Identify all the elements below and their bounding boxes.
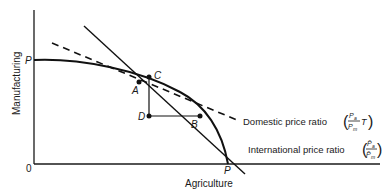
ppf-y-intercept-label: P bbox=[25, 55, 32, 66]
svg-text:m: m bbox=[371, 154, 375, 160]
point-c-label: C bbox=[154, 70, 162, 81]
point-b-label: B bbox=[191, 119, 198, 130]
point-b-marker bbox=[198, 114, 203, 119]
svg-text:a: a bbox=[372, 143, 375, 149]
point-a-label: A bbox=[131, 85, 139, 96]
y-axis-title: Manufacturing bbox=[11, 52, 22, 115]
domestic-price-line bbox=[52, 43, 237, 120]
domestic-price-ratio-label: Domestic price ratio ( P a P m T ) bbox=[243, 112, 373, 132]
international-price-line bbox=[84, 26, 245, 174]
origin-label: 0 bbox=[26, 163, 32, 174]
international-label-text: International price ratio bbox=[248, 144, 345, 155]
close-paren: ) bbox=[377, 141, 382, 158]
point-c-marker bbox=[147, 75, 152, 80]
ppf-diagram: A C D B P P 0 Agriculture Manufacturing … bbox=[0, 0, 383, 193]
domestic-label-text: Domestic price ratio bbox=[243, 116, 327, 127]
international-price-ratio-label: International price ratio ( P̄ a P̄ m ) bbox=[248, 140, 382, 160]
tariff-multiplier: T bbox=[361, 117, 368, 127]
svg-text:a: a bbox=[354, 115, 357, 121]
ppf-x-intercept-label: P bbox=[224, 165, 231, 176]
close-paren: ) bbox=[368, 113, 373, 130]
point-d-marker bbox=[147, 114, 152, 119]
x-axis-title: Agriculture bbox=[185, 178, 233, 189]
point-d-label: D bbox=[138, 111, 145, 122]
point-a-marker bbox=[137, 80, 142, 85]
svg-text:m: m bbox=[353, 126, 357, 132]
